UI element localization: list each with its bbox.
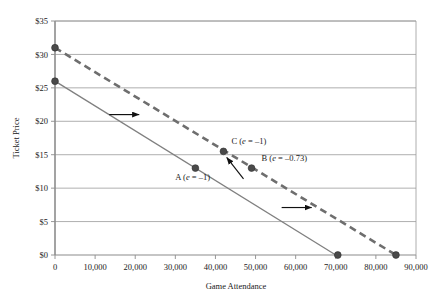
demand-curve-chart: $0$5$10$15$20$25$30$35 010,00020,00030,0…	[0, 0, 448, 298]
y-tick-label: $10	[35, 183, 48, 193]
marker-dashed-x-intercept	[393, 252, 400, 259]
x-tick-label: 10,000	[83, 262, 106, 272]
x-tick-label: 90,000	[404, 262, 427, 272]
y-tick-label: $30	[35, 50, 48, 60]
y-axis-title: Ticket Price	[11, 117, 21, 158]
x-tick-label: 0	[53, 262, 57, 272]
label-B: B (e = –0.73)	[262, 153, 308, 163]
y-tick-label: $35	[35, 16, 48, 26]
x-tick-label: 50,000	[244, 262, 267, 272]
x-tick-label: 40,000	[204, 262, 227, 272]
x-tick-label: 20,000	[124, 262, 147, 272]
x-tick-label: 60,000	[284, 262, 307, 272]
label-A: A (e = –1)	[175, 172, 210, 182]
x-tick-label: 70,000	[324, 262, 347, 272]
x-tick-label: 80,000	[364, 262, 387, 272]
y-tick-label: $20	[35, 116, 48, 126]
marker-point-C	[220, 148, 227, 155]
chart-container: $0$5$10$15$20$25$30$35 010,00020,00030,0…	[0, 0, 448, 298]
x-tick-label: 30,000	[164, 262, 187, 272]
x-axis-title: Game Attendance	[206, 281, 267, 291]
y-tick-label: $15	[35, 150, 48, 160]
y-tick-label: $25	[35, 83, 48, 93]
marker-solid-intercept	[52, 78, 59, 85]
y-tick-label: $5	[40, 217, 49, 227]
marker-dashed-intercept	[52, 44, 59, 51]
marker-point-A	[192, 165, 199, 172]
marker-point-B	[248, 165, 255, 172]
marker-solid-x-intercept	[334, 252, 341, 259]
label-C: C (e = –1)	[231, 136, 266, 146]
y-tick-label: $0	[40, 250, 49, 260]
